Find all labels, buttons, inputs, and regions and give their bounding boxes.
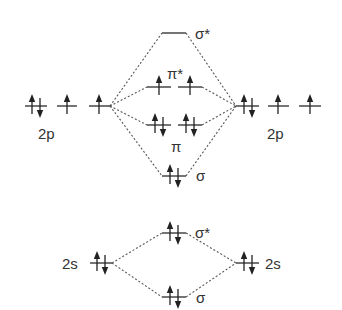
spin-up-arrow-icon: [167, 164, 173, 184]
right-2p-orbital-2: [268, 94, 289, 114]
spin-up-arrow-icon: [183, 113, 189, 133]
spin-up-arrow-icon: [307, 94, 313, 114]
sigma-star-2s-label: σ*: [195, 224, 210, 241]
pi-2p-label: π: [171, 138, 181, 155]
right-2p-orbital-1: [236, 94, 259, 118]
right-2p-orbitals: 2p: [236, 94, 321, 142]
left-2s-orbital: 2s: [62, 251, 112, 275]
spin-down-arrow-icon: [249, 255, 255, 275]
mo-diagram: 2p 2p σ* π*: [0, 0, 342, 310]
spin-down-arrow-icon: [160, 117, 166, 137]
spin-up-arrow-icon: [241, 94, 247, 114]
right-2s-orbital: 2s: [236, 251, 281, 275]
pi-star-2p-orbitals: π*: [147, 65, 202, 95]
spin-down-arrow-icon: [175, 225, 181, 245]
spin-up-arrow-icon: [167, 221, 173, 241]
spin-down-arrow-icon: [175, 168, 181, 188]
spin-down-arrow-icon: [37, 98, 43, 118]
pi-2p-orbitals: π: [147, 113, 202, 155]
spin-up-arrow-icon: [275, 94, 281, 114]
left-2s-label: 2s: [62, 255, 78, 272]
spin-up-arrow-icon: [64, 94, 70, 114]
sigma-2s-label: σ: [196, 289, 206, 306]
spin-up-arrow-icon: [241, 251, 247, 271]
left-2p-label: 2p: [38, 125, 55, 142]
spin-up-arrow-icon: [187, 75, 193, 95]
right-2p-orbital-3: [299, 94, 321, 114]
spin-up-arrow-icon: [167, 285, 173, 305]
sigma-star-2p-label: σ*: [195, 25, 210, 42]
sigma-2s-orbital: σ: [162, 285, 206, 309]
sigma-2p-label: σ: [196, 167, 206, 184]
spin-up-arrow-icon: [156, 75, 162, 95]
left-2p-orbital-2: [57, 94, 77, 114]
spin-up-arrow-icon: [96, 94, 102, 114]
spin-down-arrow-icon: [249, 98, 255, 118]
right-2s-label: 2s: [265, 255, 281, 272]
correlation-lines-2s: [112, 233, 236, 297]
spin-down-arrow-icon: [191, 117, 197, 137]
spin-down-arrow-icon: [175, 289, 181, 309]
spin-up-arrow-icon: [94, 251, 100, 271]
sigma-2p-orbital: σ: [162, 164, 206, 188]
right-2p-label: 2p: [267, 125, 284, 142]
spin-up-arrow-icon: [29, 94, 35, 114]
left-2p-orbital-3: [89, 94, 110, 114]
left-2p-orbitals: 2p: [25, 94, 110, 142]
pi-star-2p-label: π*: [167, 65, 183, 82]
spin-down-arrow-icon: [102, 255, 108, 275]
left-2p-orbital-1: [25, 94, 47, 118]
spin-up-arrow-icon: [152, 113, 158, 133]
